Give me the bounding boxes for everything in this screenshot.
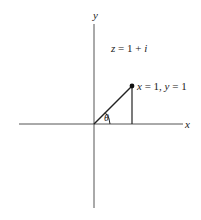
point-label: x = 1, y = 1 [136, 80, 187, 92]
angle-theta-label: θ [104, 112, 109, 123]
point-marker [130, 84, 135, 89]
vector-line [94, 86, 132, 124]
y-axis-label: y [92, 9, 98, 21]
equation-label: z = 1 + i [110, 42, 147, 54]
complex-plane-diagram: x y θ z = 1 + i x = 1, y = 1 [0, 0, 201, 220]
x-axis-label: x [184, 118, 190, 130]
